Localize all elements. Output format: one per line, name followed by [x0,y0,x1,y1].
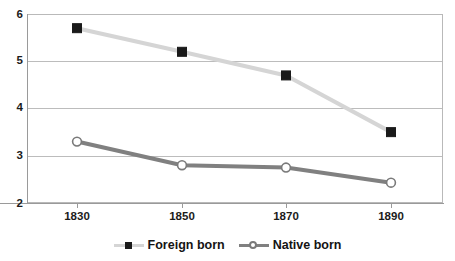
legend-entry-native-born[interactable]: Native born [239,239,342,252]
y-axis-line [27,14,28,204]
x-tick-label-1890: 1890 [378,211,404,223]
x-tick-1890 [391,203,392,208]
line-chart: 6 5 4 3 2 1830 1850 1870 1890 Foreign bo… [0,0,455,261]
y-tick-label-4: 4 [0,102,23,114]
legend-marker-native-born [249,241,257,249]
legend-label-foreign-born: Foreign born [148,239,225,252]
y-tick-label-2: 2 [0,198,23,210]
legend-marker-foreign-born [125,242,132,249]
gridline-5 [28,61,442,62]
y-tick-label-3: 3 [0,150,23,162]
x-tick-label-1850: 1850 [169,211,195,223]
filled-square-marker-icon [114,239,144,251]
legend: Foreign born Native born [0,234,455,256]
gridline-3 [28,156,442,157]
x-tick-1870 [286,203,287,208]
y-tick-label-6: 6 [0,9,23,21]
legend-label-native-born: Native born [273,239,342,252]
x-tick-label-1870: 1870 [273,211,299,223]
y-axis-tick-labels: 6 5 4 3 2 [0,0,23,261]
y-tick-label-5: 5 [0,55,23,67]
clipped-title-artifact [120,0,320,3]
legend-entry-foreign-born[interactable]: Foreign born [114,239,225,252]
x-tick-1830 [77,203,78,208]
x-tick-label-1830: 1830 [64,211,90,223]
gridline-4 [28,108,442,109]
x-axis-line [0,203,444,204]
open-circle-marker-icon [239,239,269,251]
plot-area [27,14,443,203]
x-tick-1850 [182,203,183,208]
